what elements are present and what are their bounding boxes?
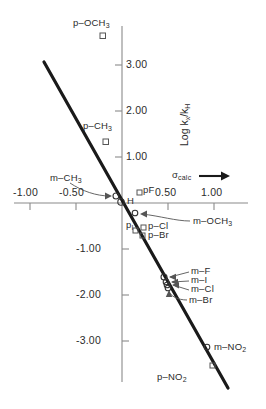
y-tick-label-2.00: 2.00 <box>126 104 147 116</box>
marker-m-OCH3 <box>132 210 138 216</box>
x-tick-label--1.00: -1.00 <box>13 186 38 198</box>
point-label-p-NO2: p–NO2 <box>157 371 187 383</box>
arrow-m-Br <box>169 291 187 300</box>
arrowhead-m-CH3 <box>105 193 112 200</box>
point-label-p-NO2-text: p–NO <box>157 371 183 382</box>
point-label-m-CH3: m–CH3 <box>50 172 82 184</box>
marker-p-Cl <box>141 225 146 230</box>
point-label-p-Br: p–Br <box>148 229 169 240</box>
y-tick-label--2.00: -2.00 <box>76 288 101 300</box>
point-label-p-OCH3-text: p–OCH <box>73 17 106 28</box>
y-tick-label--1.00: -1.00 <box>76 242 101 254</box>
point-label-m-NO2-sub: 2 <box>242 346 246 353</box>
point-label-m-OCH3: m–OCH3 <box>193 215 232 227</box>
arrowhead-m-F <box>169 274 176 280</box>
point-label-m-NO2-text: m–NO <box>214 341 242 352</box>
point-label-m-OCH3-sub: 3 <box>228 220 232 227</box>
point-label-m-OCH3-text: m–OCH <box>193 215 228 226</box>
point-label-pF: pF <box>143 184 155 195</box>
sigma-subscript: calc <box>178 174 191 181</box>
point-label-p-NO2-sub: 2 <box>183 376 187 383</box>
point-label-H: H <box>127 195 134 206</box>
y-axis-title-slash: /k <box>178 109 190 117</box>
x-tick-label--0.50: -0.50 <box>59 186 84 198</box>
point-label-pI-i: I <box>131 224 133 231</box>
point-label-m-Cl: m–Cl <box>191 283 214 294</box>
y-axis-title-sub-x: x <box>184 117 191 121</box>
x-axis-title: σcalc <box>172 169 191 181</box>
data-markers <box>100 33 215 368</box>
marker-pF <box>137 190 142 195</box>
marker-p-CH3 <box>103 139 109 145</box>
point-label-m-CH3-text: m–CH <box>50 172 78 183</box>
point-label-m-Br: m–Br <box>189 294 213 305</box>
point-label-pI: pI <box>126 219 134 231</box>
sigma-axis-arrow <box>199 172 230 181</box>
y-tick-label--3.00: -3.00 <box>76 334 101 346</box>
y-axis-title-sub-h: H <box>184 104 191 109</box>
arrowhead-m-OCH3 <box>140 211 147 218</box>
y-tick-label-1.00: 1.00 <box>126 150 147 162</box>
point-label-p-CH3-text: p–CH <box>83 120 108 131</box>
point-label-pF-f: F <box>148 184 154 195</box>
point-label-p-OCH3: p–OCH3 <box>73 17 110 29</box>
point-label-m-CH3-sub: 3 <box>78 177 82 184</box>
point-label-p-CH3-sub: 3 <box>108 125 112 132</box>
y-tick-label-3.00: 3.00 <box>126 58 147 70</box>
y-axis-title-prefix: Log k <box>178 120 190 146</box>
y-axis-title: Log kx/kH <box>178 104 191 146</box>
point-label-m-NO2: m–NO2 <box>214 341 246 353</box>
marker-p-OCH3 <box>100 33 106 39</box>
x-tick-label-1.00: 1.00 <box>201 186 222 198</box>
point-label-p-OCH3-sub: 3 <box>106 22 110 29</box>
x-tick-label-0.50: 0.50 <box>155 186 176 198</box>
point-label-p-CH3: p–CH3 <box>83 120 112 132</box>
